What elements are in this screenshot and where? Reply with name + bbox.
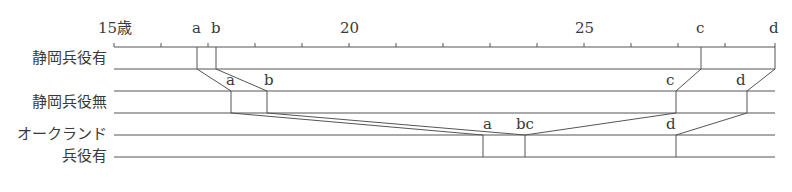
row3-marker-a: a: [483, 116, 492, 132]
row3-boundaries: [483, 135, 676, 157]
axis-label-15: 15歳: [98, 20, 132, 36]
row1-marker-d: d: [769, 20, 779, 36]
row1-boundaries: [197, 47, 775, 69]
row1-marker-c: c: [696, 20, 704, 36]
row2-marker-b: b: [264, 72, 274, 88]
row2-marker-c: c: [666, 72, 674, 88]
axis-label-20: 20: [340, 20, 359, 36]
row1-to-row2-connectors: [197, 69, 775, 91]
row-label-shizuoka-with-service: 静岡兵役有: [17, 49, 107, 67]
row3-marker-bc: bc: [516, 116, 534, 132]
row2-marker-a: a: [226, 72, 235, 88]
row2-boundaries: [231, 91, 747, 113]
row-label-auckland-line2: 兵役有: [10, 147, 107, 165]
axis-label-25: 25: [575, 20, 594, 36]
row3-marker-d: d: [666, 116, 676, 132]
row1-marker-a: a: [192, 20, 201, 36]
row2-marker-d: d: [736, 72, 746, 88]
row-label-shizuoka-without-service: 静岡兵役無: [17, 93, 107, 111]
row1-marker-b: b: [211, 20, 221, 36]
row-label-auckland-line1: オークランド: [10, 125, 107, 143]
axis-ticks: [114, 43, 775, 47]
